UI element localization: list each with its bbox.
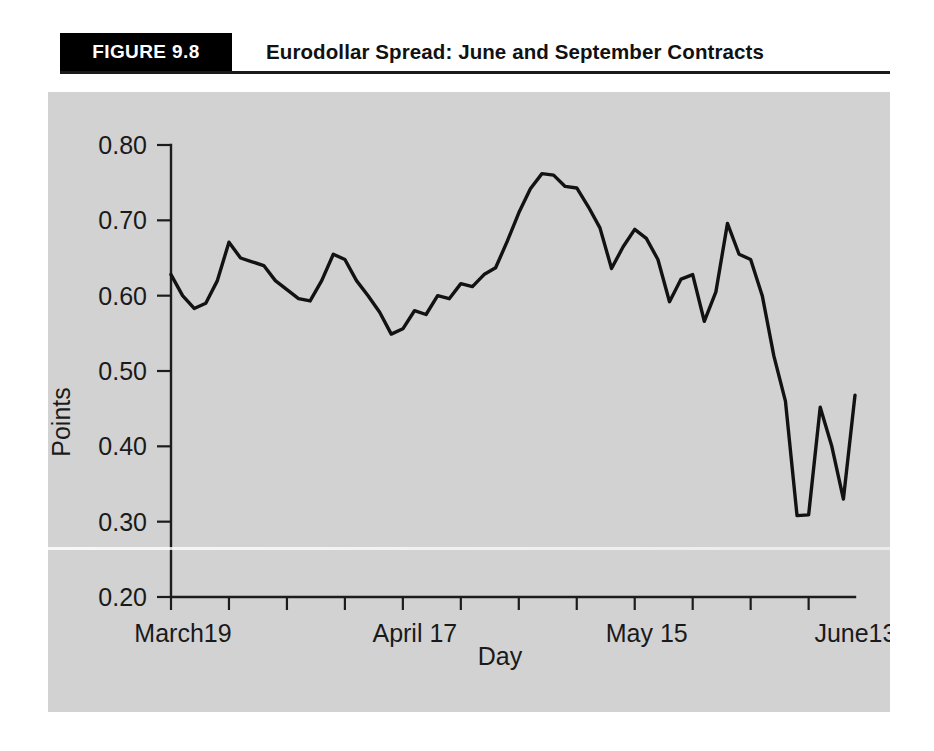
x-tick-label: June13 xyxy=(814,619,890,647)
y-tick-label: 0.80 xyxy=(98,131,147,159)
figure-root: FIGURE 9.8 Eurodollar Spread: June and S… xyxy=(0,0,934,751)
y-tick-label: 0.40 xyxy=(98,432,147,460)
x-tick-label: April 17 xyxy=(372,619,457,647)
figure-header: FIGURE 9.8 Eurodollar Spread: June and S… xyxy=(60,33,890,71)
data-series-line xyxy=(171,174,855,516)
chart-axes xyxy=(171,145,855,597)
y-tick-label: 0.70 xyxy=(98,206,147,234)
y-axis-tick-labels: 0.800.700.600.500.400.300.20 xyxy=(98,131,147,611)
y-axis-ticks xyxy=(157,145,171,597)
y-tick-label: 0.20 xyxy=(98,583,147,611)
header-divider xyxy=(60,71,890,74)
y-tick-label: 0.30 xyxy=(98,508,147,536)
x-axis-title: Day xyxy=(478,642,523,670)
x-tick-label: May 15 xyxy=(606,619,688,647)
figure-title: Eurodollar Spread: June and September Co… xyxy=(232,33,890,71)
y-tick-label: 0.50 xyxy=(98,357,147,385)
chart-panel: 0.800.700.600.500.400.300.20 March19Apri… xyxy=(48,92,890,712)
figure-number-badge: FIGURE 9.8 xyxy=(60,33,232,71)
line-chart: 0.800.700.600.500.400.300.20 March19Apri… xyxy=(48,92,890,712)
x-axis-ticks xyxy=(171,597,809,610)
x-tick-label: March19 xyxy=(134,619,231,647)
y-tick-label: 0.60 xyxy=(98,282,147,310)
y-axis-title: Points xyxy=(48,387,75,456)
